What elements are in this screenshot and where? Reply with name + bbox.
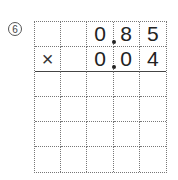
answer-cell[interactable]: [61, 72, 87, 97]
answer-cell[interactable]: [87, 72, 113, 97]
answer-cell[interactable]: [87, 97, 113, 122]
grid-cell-r2-c4: 0: [114, 47, 140, 72]
answer-cell[interactable]: [114, 97, 140, 122]
grid-cell-r2-c1: ×: [35, 47, 61, 72]
answer-cell[interactable]: [61, 122, 87, 147]
answer-cell[interactable]: [140, 72, 166, 97]
answer-cell[interactable]: [61, 147, 87, 172]
multiplication-grid: 0 8 5 × 0 0 4: [34, 21, 167, 173]
answer-cell[interactable]: [35, 147, 61, 172]
digit: 0: [94, 47, 106, 71]
grid-cell-r2-c3: 0: [87, 47, 113, 72]
answer-cell[interactable]: [87, 147, 113, 172]
grid-cell-r1-c4: 8: [114, 22, 140, 47]
grid-cell-r1-c1: [35, 22, 61, 47]
digit: 0: [94, 22, 106, 46]
answer-cell[interactable]: [35, 72, 61, 97]
grid-cell-r2-c5: 4: [140, 47, 166, 72]
grid-cell-r1-c3: 0: [87, 22, 113, 47]
answer-cell[interactable]: [140, 97, 166, 122]
answer-cell[interactable]: [114, 72, 140, 97]
answer-cell[interactable]: [35, 97, 61, 122]
answer-cell[interactable]: [140, 147, 166, 172]
answer-cell[interactable]: [87, 122, 113, 147]
grid-cell-r1-c2: [61, 22, 87, 47]
answer-cell[interactable]: [61, 97, 87, 122]
answer-cell[interactable]: [35, 122, 61, 147]
multiply-operator: ×: [42, 48, 54, 71]
problem-number-badge: 6: [8, 22, 22, 36]
answer-cell[interactable]: [140, 122, 166, 147]
answer-cell[interactable]: [114, 122, 140, 147]
grid-cell-r1-c5: 5: [140, 22, 166, 47]
grid-cell-r2-c2: [61, 47, 87, 72]
answer-cell[interactable]: [114, 147, 140, 172]
